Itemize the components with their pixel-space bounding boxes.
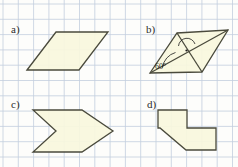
panel-label-b: b) bbox=[146, 24, 155, 35]
shape-c-arrow-chevron bbox=[33, 110, 113, 152]
panel-label-d: d) bbox=[147, 99, 156, 110]
geometry-figure: a) b) c) d) 60° bbox=[0, 0, 238, 167]
angle-label-60-degrees: 60° bbox=[155, 63, 166, 71]
panel-label-a: a) bbox=[11, 24, 20, 35]
panel-label-c: c) bbox=[11, 99, 20, 110]
angle-center-dot-icon bbox=[185, 49, 187, 51]
shapes-layer bbox=[0, 0, 238, 167]
shape-a-parallelogram bbox=[27, 32, 108, 70]
shape-d-zigzag-arrow bbox=[158, 110, 216, 150]
